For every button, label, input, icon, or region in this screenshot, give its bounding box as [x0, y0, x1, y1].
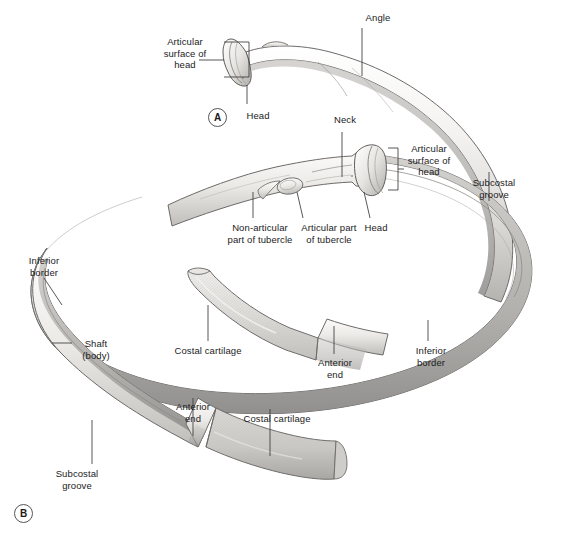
label-shaft-body: Shaft (body)	[74, 338, 118, 361]
rib-anatomy-figure: Articular surface of head Angle Head Nec…	[0, 0, 570, 540]
label-costal-cartilage-upper: Costal cartilage	[165, 345, 251, 357]
rib-b-upper-left-rim	[42, 197, 142, 256]
label-articular-surface-of-head-b: Articular surface of head	[398, 143, 460, 178]
label-head-b: Head	[358, 222, 394, 234]
label-anterior-end-upper: Anterior end	[309, 357, 361, 380]
label-costal-cartilage-lower: Costal cartilage	[234, 413, 320, 425]
label-articular-surface-of-head-a: Articular surface of head	[148, 36, 222, 71]
rib-b-head	[355, 145, 387, 196]
label-angle: Angle	[356, 12, 400, 24]
leader-head-b	[364, 192, 370, 218]
label-head-a: Head	[240, 110, 276, 122]
rib-illustration	[0, 0, 570, 540]
panel-tag-a: A	[208, 108, 227, 127]
label-anterior-end-lower: Anterior end	[167, 401, 219, 424]
label-neck: Neck	[327, 114, 363, 126]
costal-cartilage-lower-cut-end	[334, 441, 347, 479]
label-articular-part-of-tubercle: Articular part of tubercle	[293, 222, 365, 245]
leader-articular-part-of-tubercle	[297, 192, 303, 218]
label-non-articular-part-of-tubercle: Non-articular part of tubercle	[219, 222, 301, 245]
label-subcostal-groove-right: Subcostal groove	[463, 177, 525, 200]
label-subcostal-groove-left: Subcostal groove	[46, 468, 108, 491]
panel-b-rib-ring	[31, 145, 532, 479]
panel-tag-b: B	[14, 504, 33, 523]
rib-b-head-dot	[351, 175, 353, 177]
label-inferior-border-left: Inferior border	[20, 255, 68, 278]
label-inferior-border-right: Inferior border	[407, 345, 455, 368]
